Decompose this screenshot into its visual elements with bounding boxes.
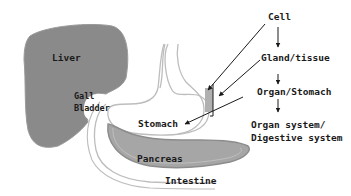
hierarchy-organ-system-1: Organ system/ (251, 119, 326, 130)
label-stomach: Stomach (138, 118, 178, 129)
hierarchy-gland-tissue: Gland/tissue (261, 52, 330, 63)
tissue-patch (205, 88, 213, 112)
label-liver: Liver (52, 52, 81, 63)
hierarchy-cell: Cell (268, 11, 291, 22)
label-intestine: Intestine (165, 175, 217, 186)
label-gall-bladder-1: Gall (74, 91, 94, 101)
arrow-tissue-to-patch (219, 60, 260, 96)
arrow-organ-to-stomach (185, 97, 243, 124)
hierarchy-organ-stomach: Organ/Stomach (257, 86, 331, 97)
label-gall-bladder-2: Bladder (74, 103, 110, 113)
hierarchy-organ-system-2: Digestive system (251, 132, 343, 143)
esophagus-right-line (177, 44, 204, 134)
digestive-diagram: Liver Gall Bladder Stomach Pancreas Inte… (0, 0, 351, 196)
label-pancreas: Pancreas (137, 153, 183, 164)
